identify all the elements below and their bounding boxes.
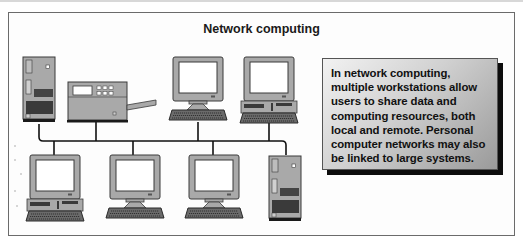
caption-box: In network computing, multiple workstati… xyxy=(322,58,498,170)
desktop-computer-icon xyxy=(240,57,298,123)
monitor-icon xyxy=(106,155,164,218)
monitor-icon xyxy=(185,155,243,218)
network-cable xyxy=(39,122,286,156)
caption-text: In network computing, multiple workstati… xyxy=(331,66,491,165)
printer-icon xyxy=(67,82,156,123)
server-tower-icon xyxy=(269,156,301,221)
desktop-computer-icon xyxy=(26,155,84,221)
server-tower-icon xyxy=(23,57,55,122)
monitor-icon xyxy=(169,57,227,120)
